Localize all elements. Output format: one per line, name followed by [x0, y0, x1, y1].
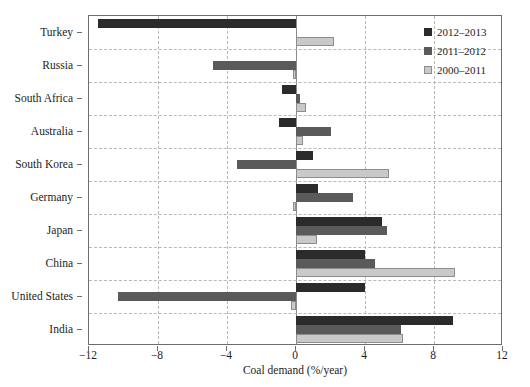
dark-square-icon [424, 28, 432, 36]
y-tick-mark [77, 230, 82, 231]
gridline-horizontal [89, 313, 501, 314]
x-tick-label: −8 [151, 349, 163, 361]
x-tick-label: 0 [292, 349, 298, 361]
zero-axis-line [296, 16, 297, 344]
y-tick-mark [77, 263, 82, 264]
x-tick-label: 8 [430, 349, 436, 361]
y-tick-mark [77, 131, 82, 132]
bar [296, 250, 365, 259]
bar [296, 268, 455, 277]
y-tick-label-germany: Germany [30, 191, 82, 203]
gridline-horizontal [89, 115, 501, 116]
bar [296, 169, 389, 178]
medium-square-icon [424, 47, 432, 55]
bar [296, 226, 387, 235]
x-tick-label: −12 [79, 349, 97, 361]
y-tick-label-south-korea: South Korea [15, 158, 82, 170]
bar [118, 292, 296, 301]
bar [279, 118, 296, 127]
y-tick-mark [77, 296, 82, 297]
y-tick-label-united-states: United States [11, 290, 82, 302]
bar [296, 94, 300, 103]
y-tick-label-australia: Australia [31, 125, 82, 137]
gridline-horizontal [89, 148, 501, 149]
bar [296, 334, 403, 343]
x-tick-label: −4 [220, 349, 232, 361]
y-axis: TurkeyRussiaSouth AfricaAustraliaSouth K… [0, 15, 82, 345]
x-tick-label: 12 [496, 349, 508, 361]
bar [296, 37, 334, 46]
y-tick-mark [77, 98, 82, 99]
legend-item[interactable]: 2000–2011 [424, 60, 504, 79]
bar [296, 259, 375, 268]
x-axis-title: Coal demand (%/year) [88, 364, 502, 376]
x-axis: −12−8−404812 [88, 346, 502, 366]
gridline-horizontal [89, 280, 501, 281]
gridline-horizontal [89, 181, 501, 182]
legend-label: 2000–2011 [437, 64, 486, 76]
bar [293, 202, 296, 211]
bar [296, 217, 382, 226]
bar [237, 160, 296, 169]
legend-label: 2012–2013 [437, 26, 487, 38]
bar [293, 70, 296, 79]
bar [296, 235, 317, 244]
bar [296, 136, 303, 145]
y-tick-label-south-africa: South Africa [15, 92, 82, 104]
gridline-horizontal [89, 247, 501, 248]
y-tick-label-turkey: Turkey [40, 26, 82, 38]
bar [296, 103, 306, 112]
bar [213, 61, 296, 70]
gridline-horizontal [89, 214, 501, 215]
legend-label: 2011–2012 [437, 45, 486, 57]
bar [296, 184, 318, 193]
light-square-icon [424, 66, 432, 74]
bar [296, 193, 353, 202]
bar [98, 19, 296, 28]
legend: 2012–20132011–20122000–2011 [424, 22, 504, 79]
gridline-vertical [365, 16, 366, 344]
legend-item[interactable]: 2012–2013 [424, 22, 504, 41]
coal-demand-bar-chart: TurkeyRussiaSouth AfricaAustraliaSouth K… [0, 0, 530, 387]
bar [296, 325, 401, 334]
y-tick-mark [77, 329, 82, 330]
bar [296, 316, 453, 325]
x-tick-label: 4 [361, 349, 367, 361]
bar [296, 151, 313, 160]
bar [296, 127, 331, 136]
y-tick-mark [77, 164, 82, 165]
y-tick-mark [77, 65, 82, 66]
legend-item[interactable]: 2011–2012 [424, 41, 504, 60]
bar [282, 85, 296, 94]
y-tick-mark [77, 32, 82, 33]
y-tick-mark [77, 197, 82, 198]
bar [296, 283, 365, 292]
bar [291, 301, 296, 310]
gridline-horizontal [89, 82, 501, 83]
